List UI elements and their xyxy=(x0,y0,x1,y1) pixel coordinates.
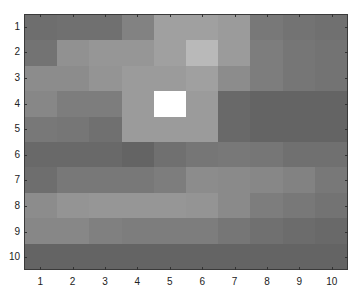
x-tick-mark xyxy=(202,14,203,17)
x-tick-mark xyxy=(202,267,203,270)
heatmap-cell xyxy=(89,142,121,167)
x-tick-mark xyxy=(40,14,41,17)
heatmap-cell xyxy=(250,91,282,116)
heatmap-cell xyxy=(154,244,186,269)
heatmap-cell xyxy=(315,91,347,116)
y-tick-mark xyxy=(24,27,27,28)
heatmap-cell xyxy=(283,117,315,142)
y-tick-label: 9 xyxy=(4,226,20,237)
heatmap-cell xyxy=(154,142,186,167)
heatmap-cell xyxy=(25,142,57,167)
heatmap-cell xyxy=(25,15,57,40)
heatmap-cell xyxy=(122,91,154,116)
x-tick-mark xyxy=(299,14,300,17)
heatmap-cell xyxy=(25,193,57,218)
heatmap-cell xyxy=(154,193,186,218)
x-tick-mark xyxy=(267,267,268,270)
y-tick-mark xyxy=(24,257,27,258)
heatmap-cell xyxy=(283,66,315,91)
x-tick-label: 9 xyxy=(289,276,309,287)
y-tick-label: 3 xyxy=(4,72,20,83)
heatmap-cell xyxy=(218,15,250,40)
heatmap-cell xyxy=(218,91,250,116)
heatmap-cell xyxy=(315,244,347,269)
heatmap-cell xyxy=(250,66,282,91)
heatmap-cell xyxy=(122,142,154,167)
heatmap-cell xyxy=(250,167,282,192)
heatmap-cell xyxy=(283,15,315,40)
x-tick-label: 4 xyxy=(127,276,147,287)
y-tick-mark xyxy=(345,129,348,130)
heatmap-cell xyxy=(218,193,250,218)
heatmap-cell xyxy=(57,40,89,65)
x-tick-label: 10 xyxy=(322,276,342,287)
heatmap-cell xyxy=(283,193,315,218)
x-tick-mark xyxy=(105,267,106,270)
heatmap-cell xyxy=(25,117,57,142)
heatmap-cell xyxy=(122,218,154,243)
x-tick-mark xyxy=(73,267,74,270)
heatmap-cell xyxy=(186,218,218,243)
y-tick-mark xyxy=(345,232,348,233)
heatmap-cell xyxy=(283,40,315,65)
heatmap-cell xyxy=(218,142,250,167)
heatmap-cell xyxy=(250,142,282,167)
heatmap-cell xyxy=(186,167,218,192)
y-tick-mark xyxy=(345,104,348,105)
heatmap-cell xyxy=(154,218,186,243)
heatmap-cell xyxy=(25,167,57,192)
heatmap-cell xyxy=(218,66,250,91)
x-tick-mark xyxy=(332,14,333,17)
y-tick-label: 4 xyxy=(4,98,20,109)
heatmap-cell xyxy=(57,117,89,142)
heatmap-cell xyxy=(315,15,347,40)
heatmap-cell xyxy=(57,91,89,116)
y-tick-mark xyxy=(24,129,27,130)
x-tick-label: 7 xyxy=(225,276,245,287)
heatmap-cell xyxy=(89,193,121,218)
x-tick-mark xyxy=(40,267,41,270)
heatmap-cell xyxy=(250,117,282,142)
heatmap-cell xyxy=(283,142,315,167)
heatmap-cell xyxy=(283,218,315,243)
heatmap-cell xyxy=(25,66,57,91)
heatmap-plot-area xyxy=(24,14,348,270)
x-tick-label: 5 xyxy=(160,276,180,287)
x-tick-mark xyxy=(137,267,138,270)
heatmap-cell xyxy=(186,91,218,116)
heatmap-cell xyxy=(218,40,250,65)
heatmap-cell xyxy=(218,244,250,269)
heatmap-cell xyxy=(186,193,218,218)
heatmap-cell xyxy=(25,40,57,65)
heatmap-cell xyxy=(122,244,154,269)
heatmap-cell xyxy=(186,66,218,91)
y-tick-mark xyxy=(345,27,348,28)
heatmap-cell xyxy=(186,142,218,167)
heatmap-cell xyxy=(122,167,154,192)
heatmap-cell xyxy=(89,40,121,65)
y-tick-mark xyxy=(24,206,27,207)
heatmap-cell xyxy=(186,40,218,65)
heatmap-cell xyxy=(25,244,57,269)
y-tick-label: 5 xyxy=(4,123,20,134)
x-tick-label: 3 xyxy=(95,276,115,287)
x-tick-label: 2 xyxy=(63,276,83,287)
x-tick-mark xyxy=(170,267,171,270)
heatmap-cell xyxy=(154,40,186,65)
y-tick-mark xyxy=(345,52,348,53)
heatmap-cell xyxy=(122,117,154,142)
heatmap-cell xyxy=(250,15,282,40)
heatmap-cell xyxy=(315,167,347,192)
y-tick-mark xyxy=(24,155,27,156)
heatmap-cell xyxy=(89,91,121,116)
y-tick-label: 2 xyxy=(4,46,20,57)
x-tick-mark xyxy=(235,267,236,270)
y-tick-label: 6 xyxy=(4,149,20,160)
y-tick-label: 7 xyxy=(4,174,20,185)
heatmap-cell xyxy=(218,117,250,142)
x-tick-mark xyxy=(73,14,74,17)
y-tick-mark xyxy=(24,232,27,233)
heatmap-cell xyxy=(122,15,154,40)
heatmap-cell xyxy=(218,218,250,243)
heatmap-cell xyxy=(186,117,218,142)
